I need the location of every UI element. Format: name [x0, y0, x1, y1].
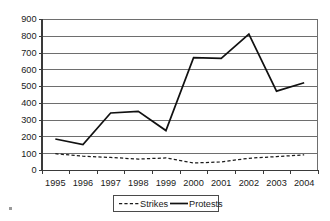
x-axis-tick-labels: 1995199619971998199920002001200220032004 — [45, 178, 314, 188]
x-tick-label: 2002 — [239, 178, 259, 188]
series-line-protests — [55, 34, 304, 144]
y-tick-label: 300 — [21, 115, 36, 125]
x-tick-label: 1998 — [128, 178, 148, 188]
y-tick-label: 500 — [21, 81, 36, 91]
y-tick-label: 400 — [21, 98, 36, 108]
y-tick-label: 700 — [21, 48, 36, 58]
y-tick-label: 100 — [21, 149, 36, 159]
x-tick-label: 1996 — [73, 178, 93, 188]
line-chart: 0100200300400500600700800900 19951996199… — [0, 0, 330, 221]
y-tick-label: 200 — [21, 132, 36, 142]
x-tick-label: 1997 — [100, 178, 120, 188]
series-line-strikes — [55, 154, 304, 163]
y-tick-label: 0 — [31, 165, 36, 175]
y-tick-label: 600 — [21, 65, 36, 75]
legend-label-protests: Protests — [189, 199, 223, 209]
corner-artifact — [9, 207, 12, 210]
y-axis-tick-labels: 0100200300400500600700800900 — [21, 14, 36, 175]
chart-legend: StrikesProtests — [114, 196, 224, 212]
y-tick-label: 900 — [21, 14, 36, 24]
axes-group — [39, 19, 318, 171]
chart-canvas: 0100200300400500600700800900 19951996199… — [0, 0, 330, 221]
x-tick-label: 2003 — [266, 178, 286, 188]
x-tick-label: 2001 — [211, 178, 231, 188]
x-tick-label: 1995 — [45, 178, 65, 188]
x-tick-label: 2000 — [183, 178, 203, 188]
x-tick-label: 2004 — [294, 178, 314, 188]
x-tick-label: 1999 — [156, 178, 176, 188]
y-tick-label: 800 — [21, 31, 36, 41]
legend-label-strikes: Strikes — [140, 199, 168, 209]
